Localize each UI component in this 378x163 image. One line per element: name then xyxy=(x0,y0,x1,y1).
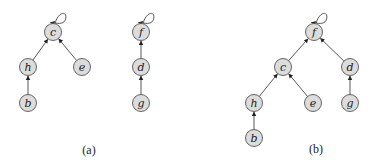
node-g: g xyxy=(342,95,359,112)
node-label: c xyxy=(280,61,286,74)
node-c: c xyxy=(275,59,292,76)
panel-caption: (b) xyxy=(309,142,323,156)
node-d: d xyxy=(133,59,150,76)
node-d: d xyxy=(342,59,359,76)
node-e: e xyxy=(305,95,322,112)
node-label: g xyxy=(137,97,144,110)
panel-caption: (a) xyxy=(82,143,95,157)
node-label: d xyxy=(137,61,144,74)
edge-e-to-c xyxy=(289,74,308,97)
edge-h-to-c xyxy=(33,39,48,60)
edge-c-to-f xyxy=(289,39,308,61)
node-label: e xyxy=(310,97,317,110)
node-label: h xyxy=(24,61,31,74)
edge-e-to-c xyxy=(59,39,77,61)
node-label: g xyxy=(346,97,353,110)
node-b: b xyxy=(246,130,263,147)
edge-h-to-c xyxy=(259,74,277,96)
node-label: c xyxy=(50,26,56,39)
node-b: b xyxy=(20,95,37,112)
node-f: f xyxy=(306,24,323,41)
panel-b: fcdhegb(b) xyxy=(246,13,359,156)
edge-d-to-f xyxy=(320,38,343,61)
panel-a: chebfdg(a) xyxy=(20,13,154,157)
node-label: h xyxy=(250,97,257,110)
node-label: e xyxy=(79,61,86,74)
node-h: h xyxy=(246,95,263,112)
self-loop-c xyxy=(51,13,66,23)
node-e: e xyxy=(74,59,91,76)
node-h: h xyxy=(20,59,37,76)
diagram-canvas: chebfdg(a)fcdhegb(b) xyxy=(0,0,378,163)
node-label: d xyxy=(346,61,353,74)
self-loop-f xyxy=(139,13,154,23)
self-loop-f xyxy=(312,13,327,23)
node-label: b xyxy=(250,132,257,145)
node-g: g xyxy=(133,95,150,112)
node-label: b xyxy=(24,97,31,110)
node-f: f xyxy=(133,24,150,41)
node-c: c xyxy=(45,24,62,41)
